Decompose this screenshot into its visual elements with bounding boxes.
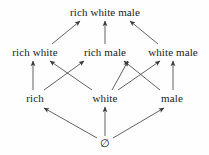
edge-empty-to-m [113, 108, 164, 138]
edge-r-to-rm [44, 61, 84, 90]
node-white-male: white male [148, 46, 198, 58]
node-rich-white-male: rich white male [70, 6, 140, 18]
edge-rw-to-rwm [52, 21, 80, 44]
node-rich-white: rich white [12, 46, 57, 58]
edge-m-to-rm [124, 61, 160, 90]
edge-empty-to-r [44, 108, 97, 138]
node-male: male [161, 92, 183, 104]
edge-w-to-wm [118, 61, 160, 90]
edge-w-to-rw [50, 61, 92, 90]
edge-w-to-rm [112, 61, 128, 90]
edge-wm-to-rwm [130, 21, 158, 44]
edge-layer [0, 0, 209, 155]
node-empty-set: ∅ [100, 137, 110, 149]
node-rich-male: rich male [84, 46, 126, 58]
node-rich: rich [26, 92, 44, 104]
lattice-diagram: rich white male rich white rich male whi… [0, 0, 209, 155]
node-white: white [93, 92, 118, 104]
